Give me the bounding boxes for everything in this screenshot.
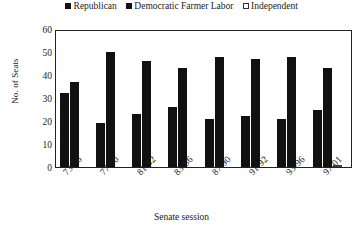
bar-democratic-farmer-labor	[106, 52, 115, 167]
bar-group	[277, 31, 313, 167]
legend-item-democratic-farmer-labor: Democratic Farmer Labor	[126, 1, 234, 12]
bar-democratic-farmer-labor	[142, 61, 151, 167]
bar-republican	[60, 93, 69, 167]
bar-republican	[313, 110, 322, 168]
y-tick-label: 60	[28, 25, 52, 35]
bar-democratic-farmer-labor	[70, 82, 79, 167]
bar-democratic-farmer-labor	[323, 68, 332, 167]
bar-group	[313, 31, 349, 167]
bar-group	[168, 31, 204, 167]
y-axis-tick-labels: 0102030405060	[28, 24, 52, 174]
x-axis-tick-labels: 73-7677-8081-8283-8687-9091-9293-9697-01	[55, 170, 352, 212]
bar-group	[132, 31, 168, 167]
y-tick-label: 50	[28, 48, 52, 58]
legend-item-republican: Republican	[65, 1, 117, 12]
y-tick-label: 20	[28, 117, 52, 127]
bar-group	[205, 31, 241, 167]
y-tick-label: 40	[28, 71, 52, 81]
bar-democratic-farmer-labor	[251, 59, 260, 167]
bar-republican	[241, 116, 250, 167]
bar-republican	[168, 107, 177, 167]
bar-group	[60, 31, 96, 167]
legend-item-independent: Independent	[243, 1, 298, 12]
y-tick-label: 0	[28, 163, 52, 173]
y-tick-label: 30	[28, 94, 52, 104]
bar-group	[241, 31, 277, 167]
legend-swatch-republican-icon	[65, 3, 71, 9]
legend-label-independent: Independent	[251, 1, 298, 12]
legend-swatch-democratic-farmer-labor-icon	[126, 3, 132, 9]
legend-swatch-independent-icon	[243, 3, 249, 9]
bar-series-container	[56, 31, 351, 167]
bar-group	[96, 31, 132, 167]
bar-chart: Republican Democratic Farmer Labor Indep…	[0, 0, 363, 233]
y-axis-title: No. of Seats	[10, 46, 20, 116]
bar-democratic-farmer-labor	[215, 57, 224, 167]
bar-republican	[277, 119, 286, 167]
bar-republican	[132, 114, 141, 167]
legend-label-democratic-farmer-labor: Democratic Farmer Labor	[134, 1, 233, 12]
bar-republican	[96, 123, 105, 167]
x-axis-title: Senate session	[0, 212, 363, 222]
legend-label-republican: Republican	[74, 1, 117, 12]
chart-legend: Republican Democratic Farmer Labor Indep…	[0, 1, 363, 12]
bar-democratic-farmer-labor	[178, 68, 187, 167]
y-tick-label: 10	[28, 140, 52, 150]
plot-area	[55, 30, 352, 168]
bar-democratic-farmer-labor	[287, 57, 296, 167]
bar-republican	[205, 119, 214, 167]
